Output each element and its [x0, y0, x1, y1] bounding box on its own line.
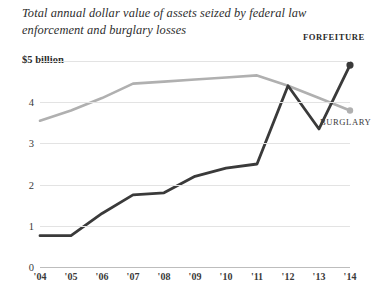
x-tick-14: '14 — [344, 271, 357, 282]
y-tick-3: 3 — [29, 138, 34, 149]
gridline-4 — [40, 102, 350, 103]
y-tick-2: 2 — [29, 179, 34, 190]
x-tick-09: '09 — [189, 271, 202, 282]
gridline-5 — [40, 61, 350, 62]
chart-container: Total annual dollar value of assets seiz… — [0, 0, 384, 292]
gridline-1 — [40, 226, 350, 227]
x-tick-11: '11 — [251, 271, 263, 282]
x-tick-08: '08 — [158, 271, 171, 282]
line-burglary — [40, 75, 350, 120]
x-tick-10: '10 — [220, 271, 233, 282]
series-layer — [40, 61, 350, 267]
plot-area — [40, 61, 350, 267]
x-tick-05: '05 — [65, 271, 78, 282]
x-tick-12: '12 — [282, 271, 295, 282]
endpoint-dot-forfeiture — [346, 62, 353, 69]
x-tick-07: '07 — [127, 271, 140, 282]
x-tick-13: '13 — [313, 271, 326, 282]
x-axis-tick-labels: '04'05'06'07'08'09'10'11'12'13'14 — [40, 271, 350, 287]
gridline-2 — [40, 185, 350, 186]
y-tick-1: 1 — [29, 220, 34, 231]
series-label-burglary: BURGLARY — [320, 117, 371, 127]
gridline-3 — [40, 143, 350, 144]
y-tick-4: 4 — [29, 97, 34, 108]
endpoint-dot-burglary — [347, 107, 353, 113]
x-tick-06: '06 — [96, 271, 109, 282]
gridline-0 — [40, 267, 350, 268]
x-tick-04: '04 — [34, 271, 47, 282]
y-axis-tick-labels: 43210 — [0, 61, 34, 267]
series-label-forfeiture: FORFEITURE — [303, 32, 365, 42]
